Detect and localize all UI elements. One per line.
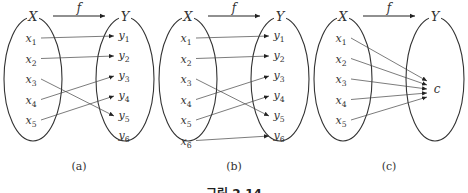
codomain-set-ellipse <box>406 17 464 141</box>
function-label: f <box>231 1 239 15</box>
element-y5: y5 <box>272 109 284 124</box>
element-x4: x4 <box>25 94 36 109</box>
element-x4: x4 <box>335 94 346 109</box>
mapping-arrow-x5-y4 <box>196 96 269 120</box>
mapping-arrow-x2-c <box>351 59 427 86</box>
function-mapping-figure: XYfx1x2x3x4x5y1y2y3y4y5y6(a)XYfx1x2x3x4x… <box>0 0 468 193</box>
domain-label: X <box>27 9 38 24</box>
mapping-arrow-x1-c <box>351 38 427 81</box>
function-label: f <box>76 1 84 15</box>
panel-b: XYfx1x2x3x4x5x6y1y2y3y4y5y6(b) <box>159 1 309 173</box>
element-y6: y6 <box>272 129 284 144</box>
codomain-label: Y <box>431 9 441 24</box>
element-x5: x5 <box>335 114 346 129</box>
panel-label: (a) <box>71 160 86 173</box>
element-y1: y1 <box>272 29 284 44</box>
element-x3: x3 <box>180 73 191 88</box>
mapping-arrow-x3-c <box>351 79 427 89</box>
mapping-arrow-x5-c <box>351 97 427 120</box>
element-c: c <box>434 82 441 96</box>
element-x2: x2 <box>180 53 191 68</box>
element-y3: y3 <box>117 69 129 84</box>
element-y4: y4 <box>117 89 129 104</box>
element-y5: y5 <box>117 109 129 124</box>
element-y1: y1 <box>117 29 129 44</box>
element-y2: y2 <box>117 49 129 64</box>
mapping-arrow-x2-y2 <box>41 56 114 59</box>
element-y6: y6 <box>117 129 129 144</box>
panel-c: XYfx1x2x3x4x5c(c) <box>314 1 464 173</box>
element-x3: x3 <box>335 73 346 88</box>
mapping-arrow-x4-y3 <box>196 76 269 100</box>
domain-label: X <box>337 9 348 24</box>
element-x3: x3 <box>25 73 36 88</box>
domain-label: X <box>182 9 193 24</box>
panel-label: (c) <box>382 160 397 173</box>
mapping-arrow-x3-y5 <box>41 79 114 116</box>
mapping-arrow-x2-y2 <box>196 56 269 59</box>
element-x1: x1 <box>25 32 36 47</box>
element-x2: x2 <box>25 53 36 68</box>
codomain-label: Y <box>276 9 286 24</box>
codomain-label: Y <box>121 9 131 24</box>
element-y3: y3 <box>272 69 284 84</box>
element-x1: x1 <box>335 32 346 47</box>
element-x6: x6 <box>180 135 191 150</box>
element-x4: x4 <box>180 94 191 109</box>
mapping-arrow-x5-y4 <box>41 96 114 120</box>
element-x1: x1 <box>180 32 191 47</box>
function-label: f <box>386 1 394 15</box>
mapping-arrow-x3-y5 <box>196 79 269 116</box>
figure-caption: 그림 2.14 <box>206 187 262 193</box>
panel-label: (b) <box>226 160 242 173</box>
mapping-arrow-x6-y6 <box>196 136 269 141</box>
element-x5: x5 <box>25 114 36 129</box>
element-x5: x5 <box>180 114 191 129</box>
element-y4: y4 <box>272 89 284 104</box>
panel-a: XYfx1x2x3x4x5y1y2y3y4y5y6(a) <box>4 1 154 173</box>
element-x2: x2 <box>335 53 346 68</box>
mapping-arrow-x4-y3 <box>41 76 114 100</box>
mapping-arrow-x4-c <box>351 93 427 100</box>
element-y2: y2 <box>272 49 284 64</box>
